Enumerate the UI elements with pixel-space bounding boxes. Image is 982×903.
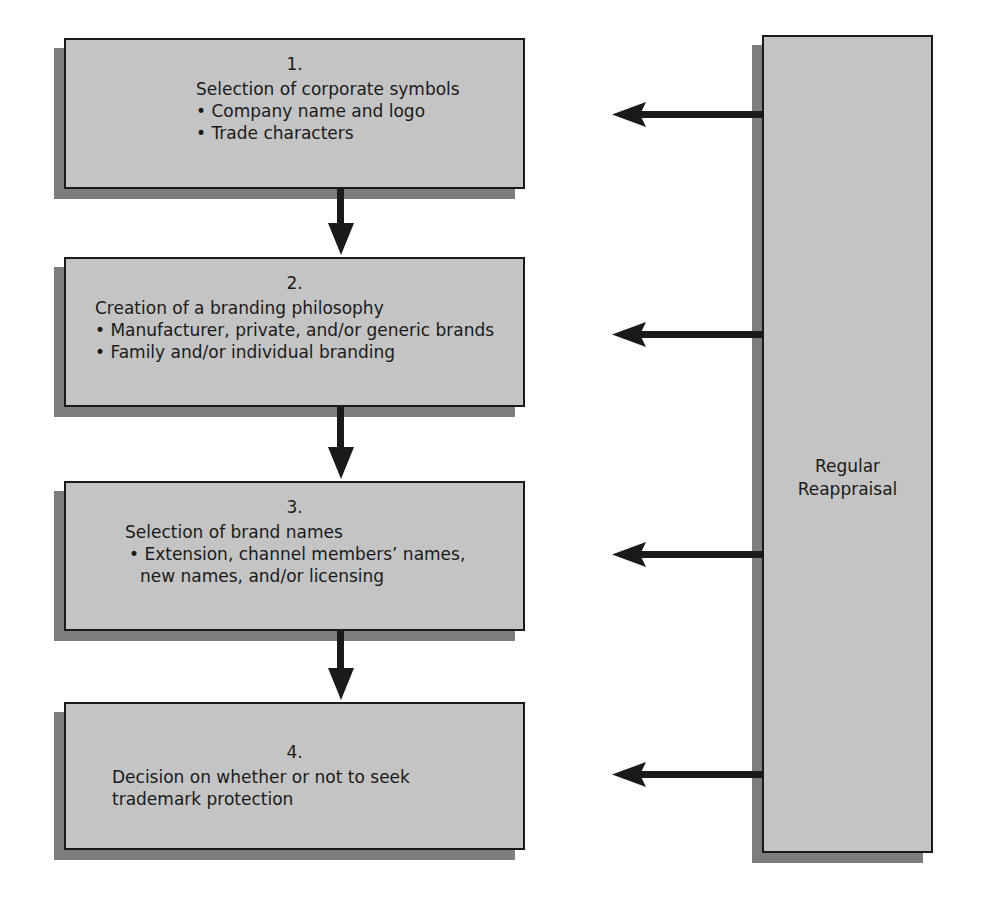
step-4-box: 4. Decision on whether or not to seek tr…	[64, 702, 525, 850]
step-3-box: 3. Selection of brand names • Extension,…	[64, 481, 525, 631]
step-1-bullet-2: • Trade characters	[196, 122, 460, 144]
step-2-text: Creation of a branding philosophy • Manu…	[95, 297, 494, 363]
step-3-title: Selection of brand names	[125, 521, 465, 543]
feedback-arrow-to-step-4	[610, 760, 762, 790]
step-2-bullet-2: • Family and/or individual branding	[95, 341, 494, 363]
step-2-bullet-1: • Manufacturer, private, and/or generic …	[95, 319, 494, 341]
reappraisal-box: Regular Reappraisal	[762, 35, 933, 853]
step-1-number: 1.	[66, 54, 523, 74]
step-4-number: 4.	[66, 742, 523, 762]
step-2-box: 2. Creation of a branding philosophy • M…	[64, 257, 525, 407]
step-3-number: 3.	[66, 497, 523, 517]
reappraisal-label: Regular Reappraisal	[762, 455, 933, 501]
step-1-bullet-1: • Company name and logo	[196, 100, 460, 122]
step-1-box: 1. Selection of corporate symbols • Comp…	[64, 38, 525, 189]
step-3-bullet-1: • Extension, channel members’ names,	[125, 543, 465, 565]
step-4-title: Decision on whether or not to seek	[112, 766, 410, 788]
down-arrow-3-to-4	[326, 631, 356, 702]
reappraisal-label-line-1: Regular	[762, 455, 933, 478]
down-arrow-2-to-3	[326, 407, 356, 481]
step-2-title: Creation of a branding philosophy	[95, 297, 494, 319]
step-1-title: Selection of corporate symbols	[196, 78, 460, 100]
feedback-arrow-to-step-1	[610, 100, 762, 130]
feedback-arrow-to-step-2	[610, 320, 762, 350]
step-4-text: Decision on whether or not to seek trade…	[112, 766, 410, 810]
down-arrow-1-to-2	[326, 189, 356, 257]
step-3-text: Selection of brand names • Extension, ch…	[125, 521, 465, 587]
step-4-line-2: trademark protection	[112, 788, 410, 810]
step-2-number: 2.	[66, 273, 523, 293]
feedback-arrow-to-step-3	[610, 540, 762, 570]
step-3-bullet-2: new names, and/or licensing	[125, 565, 465, 587]
step-1-text: Selection of corporate symbols • Company…	[196, 78, 460, 144]
reappraisal-label-line-2: Reappraisal	[762, 478, 933, 501]
